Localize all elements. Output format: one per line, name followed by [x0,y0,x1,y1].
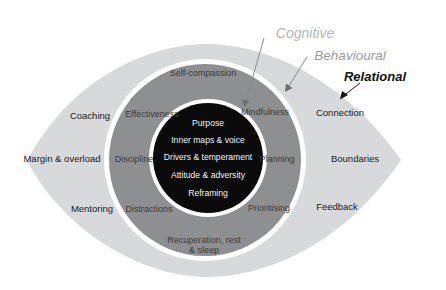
callout-relational: Relational [344,69,406,84]
eye-shape-graphic [0,0,446,290]
callout-behavioural: Behavioural [314,48,385,63]
callout-cognitive: Cognitive [276,25,334,41]
eye-resilience-diagram: Cognitive Behavioural Relational Purpose… [0,0,446,290]
core-circle [153,103,263,213]
